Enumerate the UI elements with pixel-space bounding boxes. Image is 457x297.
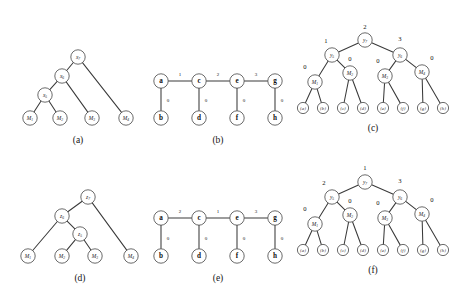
node-weight-y7: 1 <box>363 164 366 171</box>
leaf-f-leaf-h: {h} <box>437 244 448 255</box>
node-a-x7: x7 <box>71 50 85 64</box>
node-label: g <box>273 77 277 85</box>
leaf-f-leaf-g: {g} <box>417 244 428 255</box>
node-a-M1: M1 <box>23 111 37 125</box>
node-d-z7: z7 <box>81 190 95 204</box>
edge-weight-c-e: 2 <box>217 72 220 77</box>
leaf-c-leaf-g: {g} <box>417 102 428 113</box>
node-e-d: d <box>192 249 206 263</box>
node-weight-M2: 0 <box>348 55 352 62</box>
leaf-label: {b} <box>320 106 326 111</box>
node-e-f: f <box>230 249 244 263</box>
node-a-x6: x6 <box>55 69 69 83</box>
leaf-f-leaf-d: {d} <box>357 244 368 255</box>
leaf-c-leaf-e: {e} <box>377 102 388 113</box>
node-weight-M1: 0 <box>303 63 307 70</box>
figure-svg: x7x6x5M1M2M3M4(a)1230000abcdefgh(b)y72y5… <box>0 0 457 297</box>
node-f-M2: M2 <box>343 208 357 222</box>
edge-y6-M3 <box>389 61 396 70</box>
edge-y5-M1 <box>319 61 328 76</box>
node-label: b <box>159 114 163 122</box>
edge-x7-M4 <box>82 63 121 113</box>
leaf-f-leaf-f: {f} <box>397 244 408 255</box>
edge-M3-leaf-f <box>389 224 401 245</box>
leaf-label: {a} <box>300 248 306 253</box>
node-e-h: h <box>268 249 282 263</box>
leaf-c-leaf-c: {c} <box>337 102 348 113</box>
leaf-label: {c} <box>340 248 346 253</box>
panel-caption-f: (f) <box>368 265 378 276</box>
node-c-y5: y5 <box>325 48 339 62</box>
node-weight-M4: 0 <box>430 54 434 61</box>
leaf-label: {g} <box>420 106 426 111</box>
node-b-c: c <box>192 74 206 88</box>
edge-z7-z6 <box>68 201 82 212</box>
leaf-label: {e} <box>380 106 386 111</box>
edge-M1-leaf-a <box>305 231 312 245</box>
node-e-g: g <box>268 211 282 225</box>
leaf-f-leaf-e: {e} <box>377 244 388 255</box>
edge-M3-leaf-e <box>383 225 384 244</box>
node-d-z6: z6 <box>55 209 69 223</box>
edge-y7-y5 <box>339 43 359 52</box>
edge-x6-M3 <box>66 82 88 112</box>
node-c-M2: M2 <box>343 66 357 80</box>
node-a-x5: x5 <box>38 88 52 102</box>
leaf-c-leaf-f: {f} <box>397 102 408 113</box>
panel-d: z7z6z5M1M2M3M4(d) <box>21 190 138 284</box>
node-b-e: e <box>230 74 244 88</box>
node-b-h: h <box>268 111 282 125</box>
leaf-f-leaf-b: {b} <box>317 244 328 255</box>
leaf-f-leaf-a: {a} <box>297 244 308 255</box>
node-f-y6: y6 <box>393 190 407 204</box>
node-f-M1: M1 <box>308 217 322 231</box>
edge-M2-leaf-c <box>344 222 348 244</box>
leaf-label: {f} <box>401 248 406 253</box>
edge-weight-e-g: 3 <box>255 209 258 214</box>
leaf-label: {e} <box>380 248 386 253</box>
leaf-label: {d} <box>360 248 366 253</box>
node-weight-M3: 0 <box>376 199 380 206</box>
node-a-M4: M4 <box>119 111 133 125</box>
edge-y5-M1 <box>319 203 328 218</box>
node-f-y7: y7 <box>358 175 372 189</box>
edge-weight-c-d: 0 <box>205 98 208 103</box>
edge-weight-c-e: 1 <box>217 209 220 214</box>
edge-weight-g-h: 0 <box>281 98 284 103</box>
node-label: d <box>197 114 201 122</box>
node-weight-M2: 0 <box>348 197 352 204</box>
node-label: d <box>197 252 201 260</box>
edge-x7-x6 <box>67 63 74 71</box>
node-b-f: f <box>230 111 244 125</box>
leaf-label: {h} <box>440 248 446 253</box>
node-weight-y5: 1 <box>324 37 327 44</box>
node-label: a <box>159 77 163 85</box>
node-label: h <box>273 252 277 260</box>
panel-caption-a: (a) <box>73 135 84 146</box>
node-label: b <box>159 252 163 260</box>
leaf-f-leaf-c: {c} <box>337 244 348 255</box>
edge-y7-y6 <box>372 185 394 194</box>
panel-a: x7x6x5M1M2M3M4(a) <box>23 50 133 146</box>
edge-weight-e-g: 3 <box>255 72 258 77</box>
node-f-M3: M3 <box>378 211 392 225</box>
leaf-label: {g} <box>420 248 426 253</box>
node-b-a: a <box>154 74 168 88</box>
leaf-c-leaf-h: {h} <box>437 102 448 113</box>
leaf-c-leaf-a: {a} <box>297 102 308 113</box>
node-label: e <box>235 214 238 222</box>
node-weight-M4: 0 <box>430 196 434 203</box>
node-e-a: a <box>154 211 168 225</box>
edge-z6-M1 <box>33 221 58 250</box>
node-c-M3: M3 <box>378 69 392 83</box>
node-c-M4: M4 <box>415 65 429 79</box>
node-d-z5: z5 <box>73 227 87 241</box>
node-weight-y5: 2 <box>322 179 325 186</box>
node-e-e: e <box>230 211 244 225</box>
leaf-c-leaf-d: {d} <box>357 102 368 113</box>
edge-y6-M4 <box>406 201 417 209</box>
edge-M4-leaf-h <box>426 220 441 245</box>
panel-b: 1230000abcdefgh(b) <box>154 72 284 147</box>
edge-weight-g-h: 0 <box>281 236 284 241</box>
node-d-M2: M2 <box>55 249 69 263</box>
